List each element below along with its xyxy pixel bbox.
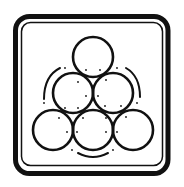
- circle-2: [53, 73, 93, 113]
- dot-18: [125, 116, 127, 118]
- dot-11: [77, 107, 79, 109]
- dot-20: [76, 131, 78, 133]
- dot-4: [116, 67, 118, 69]
- dot-13: [120, 105, 122, 107]
- dot-1: [64, 67, 66, 69]
- dot-2: [85, 69, 87, 71]
- dot-10: [64, 107, 66, 109]
- dot-19: [66, 131, 68, 133]
- dot-5: [77, 81, 79, 83]
- dot-24: [112, 149, 114, 151]
- circle-1: [73, 37, 113, 77]
- dot-6: [105, 79, 107, 81]
- circle-3: [93, 73, 133, 113]
- stacked-cylinders-symbol: [0, 0, 184, 187]
- dot-23: [71, 149, 73, 151]
- dot-7: [85, 95, 87, 97]
- arc-3: [78, 153, 108, 157]
- dot-8: [97, 95, 99, 97]
- dot-9: [43, 102, 45, 104]
- dot-22: [116, 131, 118, 133]
- circle-4: [33, 110, 73, 150]
- dot-16: [82, 117, 84, 119]
- circle-6: [113, 110, 153, 150]
- stacked-circles: [33, 37, 153, 150]
- dot-21: [105, 131, 107, 133]
- circle-5: [73, 110, 113, 150]
- dot-3: [99, 69, 101, 71]
- dot-15: [58, 117, 60, 119]
- dot-12: [104, 105, 106, 107]
- dot-17: [105, 117, 107, 119]
- dot-14: [136, 102, 138, 104]
